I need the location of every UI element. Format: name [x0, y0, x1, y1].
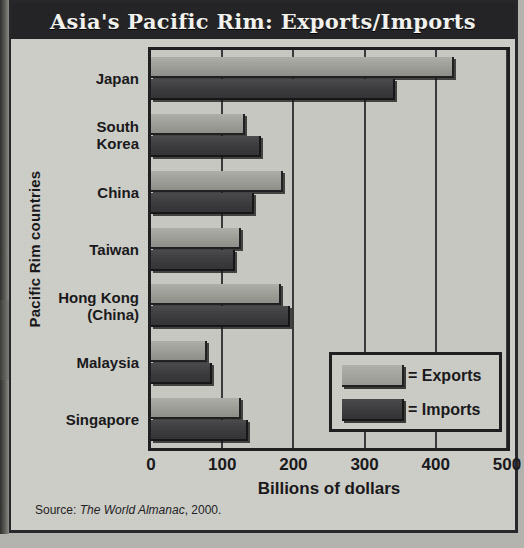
bar-imports-japan — [151, 79, 395, 100]
category-label-south-korea: SouthKorea — [16, 118, 139, 152]
bar-exports-taiwan — [151, 228, 241, 249]
category-label-hong-kong-china: Hong Kong(China) — [16, 289, 139, 323]
category-label-line: Singapore — [16, 411, 139, 428]
category-label-malaysia: Malaysia — [16, 354, 139, 371]
chart-legend: = Exports = Imports — [329, 352, 502, 432]
bar-exports-south-korea — [151, 114, 245, 135]
bar-imports-malaysia — [151, 363, 212, 384]
source-work-title: The World Almanac — [80, 503, 185, 517]
bar-exports-hong-kong-china — [151, 284, 281, 305]
x-tick-label-500: 500 — [493, 455, 521, 475]
category-label-line: Hong Kong — [16, 289, 139, 306]
source-prefix: Source: — [35, 503, 80, 517]
category-label-taiwan: Taiwan — [16, 241, 139, 258]
legend-swatch-exports — [342, 365, 404, 387]
scan-edge-strip — [0, 0, 9, 534]
chart-card: Asia's Pacific Rim: Exports/Imports Paci… — [8, 0, 518, 533]
category-label-line: South — [16, 118, 139, 135]
gridline-200 — [292, 50, 294, 448]
scan-edge-nick — [0, 300, 9, 380]
source-suffix: , 2000. — [185, 503, 222, 517]
gridline-500 — [506, 50, 507, 448]
legend-item-imports: = Imports — [342, 399, 480, 421]
x-tick-label-400: 400 — [422, 455, 450, 475]
category-label-line: Korea — [16, 135, 139, 152]
legend-swatch-imports — [342, 399, 404, 421]
bar-imports-hong-kong-china — [151, 306, 290, 327]
bar-exports-singapore — [151, 398, 241, 419]
category-label-singapore: Singapore — [16, 411, 139, 428]
bar-exports-malaysia — [151, 341, 207, 362]
category-label-line: Japan — [16, 70, 139, 87]
x-tick-label-200: 200 — [279, 455, 307, 475]
x-axis-title: Billions of dollars — [148, 479, 510, 499]
legend-item-exports: = Exports — [342, 365, 481, 387]
bar-exports-china — [151, 171, 283, 192]
category-label-japan: Japan — [16, 70, 139, 87]
bar-imports-taiwan — [151, 250, 235, 271]
x-tick-label-100: 100 — [208, 455, 236, 475]
category-label-line: (China) — [16, 306, 139, 323]
page-title: Asia's Pacific Rim: Exports/Imports — [50, 9, 476, 34]
bar-imports-china — [151, 193, 254, 214]
title-band: Asia's Pacific Rim: Exports/Imports — [11, 3, 515, 39]
x-tick-label-0: 0 — [146, 455, 155, 475]
bar-exports-japan — [151, 57, 454, 78]
category-label-china: China — [16, 184, 139, 201]
bar-imports-singapore — [151, 420, 248, 441]
category-label-line: Malaysia — [16, 354, 139, 371]
category-label-line: China — [16, 184, 139, 201]
legend-label-exports: = Exports — [408, 367, 481, 385]
source-note: Source: The World Almanac, 2000. — [35, 503, 221, 517]
x-tick-label-300: 300 — [350, 455, 378, 475]
category-label-line: Taiwan — [16, 241, 139, 258]
legend-label-imports: = Imports — [408, 401, 480, 419]
bar-imports-south-korea — [151, 136, 261, 157]
chart-page: Asia's Pacific Rim: Exports/Imports Paci… — [0, 0, 524, 548]
